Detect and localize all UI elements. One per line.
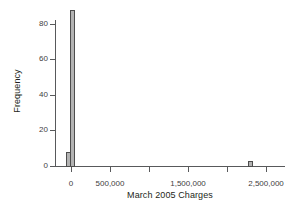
y-tick-label-40-wrap: 40 bbox=[20, 91, 48, 99]
histogram-bar bbox=[248, 161, 253, 167]
y-tick-label-40: 40 bbox=[20, 91, 48, 99]
y-tick-mark-20 bbox=[50, 130, 55, 131]
x-tick-label-1500000-wrap: 1,500,000 bbox=[153, 172, 223, 190]
histogram-bar bbox=[70, 10, 75, 167]
y-tick-label-60-wrap: 60 bbox=[20, 55, 48, 63]
y-tick-label-20-wrap: 20 bbox=[20, 126, 48, 134]
x-tick-label-500000-wrap: 500,000 bbox=[75, 172, 145, 190]
y-axis-line bbox=[55, 20, 56, 167]
y-tick-label-0: 0 bbox=[20, 162, 48, 170]
x-tick-label-500000: 500,000 bbox=[96, 179, 125, 188]
x-tick-label-1500000: 1,500,000 bbox=[170, 179, 206, 188]
y-tick-mark-0 bbox=[50, 166, 55, 167]
y-tick-mark-80 bbox=[50, 24, 55, 25]
x-tick-mark-1000000 bbox=[149, 167, 150, 172]
y-tick-label-80-wrap: 80 bbox=[20, 20, 48, 28]
x-tick-label-2500000-wrap: 2,500,000 bbox=[238, 172, 294, 190]
y-tick-label-0-wrap: 0 bbox=[20, 162, 48, 170]
y-tick-label-20: 20 bbox=[20, 126, 48, 134]
y-tick-mark-40 bbox=[50, 95, 55, 96]
plot-area: 0 20 40 60 80 0 500,000 1,500,000 bbox=[0, 0, 294, 213]
x-tick-mark-2000000 bbox=[227, 167, 228, 172]
y-tick-label-60: 60 bbox=[20, 55, 48, 63]
y-axis-title: Frequency bbox=[12, 46, 22, 136]
histogram-figure: 0 20 40 60 80 0 500,000 1,500,000 bbox=[0, 0, 294, 213]
x-axis-title: March 2005 Charges bbox=[55, 190, 285, 200]
y-tick-label-80: 80 bbox=[20, 20, 48, 28]
y-tick-mark-60 bbox=[50, 59, 55, 60]
x-tick-label-2500000: 2,500,000 bbox=[248, 179, 284, 188]
x-tick-label-0: 0 bbox=[69, 179, 73, 188]
